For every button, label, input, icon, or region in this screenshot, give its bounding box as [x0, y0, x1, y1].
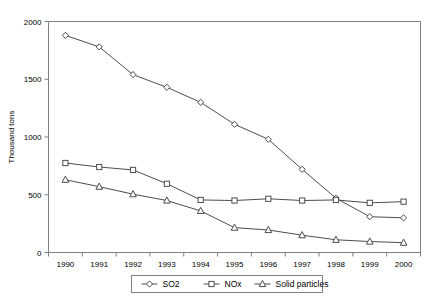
- legend-label: NOx: [225, 279, 243, 289]
- x-axis-tick-label: 1999: [361, 260, 379, 269]
- data-point: [231, 121, 237, 127]
- data-point: [130, 167, 135, 172]
- y-axis-tick-label: 500: [28, 191, 42, 200]
- y-axis-tick-label: 2000: [24, 18, 42, 27]
- legend-marker-1: [209, 281, 214, 286]
- x-axis-tick-label: 2000: [395, 260, 413, 269]
- x-axis-tick-label: 1996: [259, 260, 277, 269]
- chart-canvas: 0500100015002000Thousand tons19901991199…: [0, 0, 432, 304]
- data-point: [300, 198, 305, 203]
- data-point: [63, 160, 68, 165]
- x-axis-tick-label: 1998: [327, 260, 345, 269]
- data-point: [62, 32, 68, 38]
- legend-label: SO2: [163, 279, 180, 289]
- data-point: [367, 200, 372, 205]
- y-axis-tick-label: 0: [37, 249, 42, 258]
- x-axis-tick-label: 1992: [124, 260, 142, 269]
- series-nox: [63, 160, 406, 205]
- data-point: [164, 84, 170, 90]
- data-point: [333, 197, 338, 202]
- series-so2: [62, 32, 406, 221]
- data-point: [198, 99, 204, 105]
- x-axis-tick-label: 1997: [293, 260, 311, 269]
- data-point: [232, 198, 237, 203]
- line-chart: 0500100015002000Thousand tons19901991199…: [0, 0, 432, 304]
- data-point: [266, 196, 271, 201]
- data-point: [401, 199, 406, 204]
- x-axis-tick-label: 1991: [90, 260, 108, 269]
- y-axis-title: Thousand tons: [7, 111, 16, 164]
- y-axis-tick-label: 1000: [24, 133, 42, 142]
- x-axis: 1990199119921993199419951996199719981999…: [49, 253, 421, 269]
- x-axis-tick-label: 1995: [226, 260, 244, 269]
- x-axis-tick-label: 1993: [158, 260, 176, 269]
- legend-label: Solid particles: [276, 279, 329, 289]
- series-solid-particles: [62, 176, 407, 245]
- data-point: [400, 215, 406, 221]
- x-axis-tick-label: 1994: [192, 260, 210, 269]
- y-axis-tick-label: 1500: [24, 75, 42, 84]
- data-point: [231, 224, 238, 230]
- data-point: [62, 176, 69, 182]
- data-point: [164, 181, 169, 186]
- data-point: [198, 197, 203, 202]
- data-point: [367, 214, 373, 220]
- legend: SO2NOxSolid particles: [132, 276, 329, 293]
- y-axis: 0500100015002000: [24, 18, 49, 258]
- series-line: [65, 163, 403, 203]
- data-point: [97, 164, 102, 169]
- series-line: [65, 180, 403, 243]
- x-axis-tick-label: 1990: [57, 260, 75, 269]
- plot-area-border: [49, 22, 421, 253]
